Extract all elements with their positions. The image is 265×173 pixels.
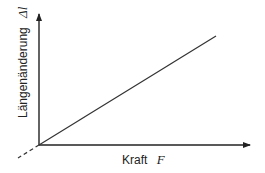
x-axis-label-text: Kraft xyxy=(122,153,148,167)
x-axis-symbol: F xyxy=(156,152,166,167)
y-axis-label-text: Längenänderung xyxy=(16,27,30,118)
x-axis-label: Kraft F xyxy=(122,152,166,167)
dashed-extrapolation xyxy=(18,145,39,158)
data-line xyxy=(39,36,216,145)
y-axis-symbol: Δl xyxy=(15,6,30,19)
y-axis-label: Längenänderung Δl xyxy=(15,6,30,118)
diagram-canvas: Längenänderung Δl Kraft F xyxy=(0,0,265,173)
